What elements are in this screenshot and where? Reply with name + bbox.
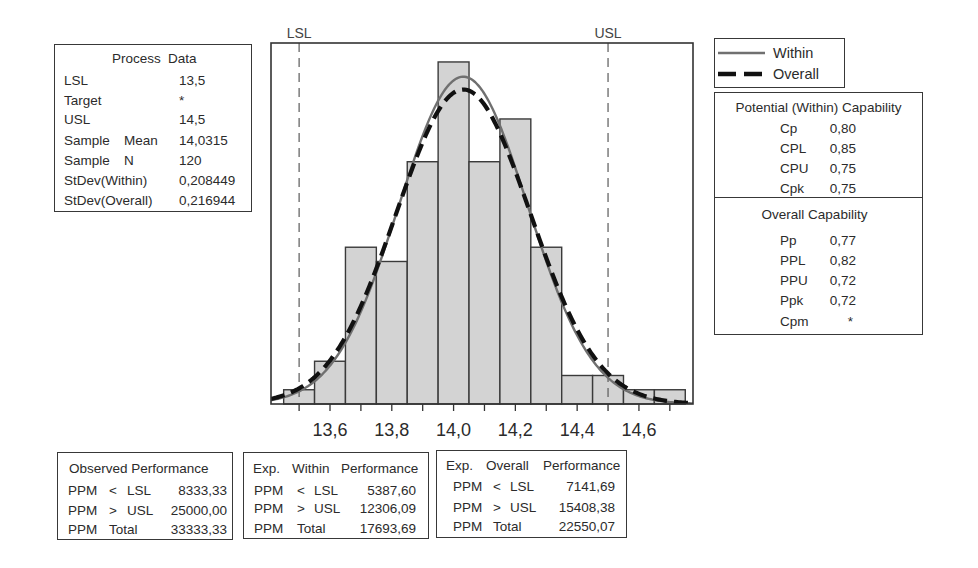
capability-value: 0,80 [830,119,856,139]
ppm-unit: PPM [254,499,283,519]
capability-value: 0,72 [830,271,856,291]
capability-value: 0,72 [830,291,856,311]
histogram-bar [438,62,469,404]
process-data-panel: Process Data LSL 13,5 Target * USL 14,5 … [54,44,252,212]
process-data-title: Process [112,49,161,69]
ppm-unit: PPM [68,520,97,540]
ppm-value: 22550,07 [559,517,615,537]
ppm-unit: PPM [254,519,283,539]
process-data-label-2: N [124,151,134,171]
x-axis-tick-label: 14,0 [436,420,471,440]
process-data-label: Sample [64,131,110,151]
process-data-value: 0,208449 [179,171,235,191]
overall-capability-title: Overall Capability [715,205,922,225]
histogram-bar [315,361,346,404]
ppm-limit: USL [314,499,340,519]
ppm-operator: < [493,477,501,497]
ppm-limit: LSL [127,481,151,501]
ppm-value: 25000,00 [171,501,227,521]
ppm-operator: > [297,499,305,519]
capability-value: 0,75 [830,179,856,199]
capability-panel: Potential (Within) Capability Cp 0,80 CP… [714,92,923,335]
x-axis-tick-label: 14,6 [621,420,656,440]
process-data-label: LSL [64,71,88,91]
capability-divider [715,197,922,198]
capability-label: Cpk [780,179,804,199]
process-data-label: Target [64,91,102,111]
exp-overall-title: Overall [486,456,529,476]
process-data-value: 14,0315 [179,131,228,151]
observed-performance-panel: Observed Performance PPM < LSL 8333,33 P… [57,452,233,540]
process-data-value: 120 [179,151,202,171]
capability-label: PPL [780,251,806,271]
ppm-limit: USL [127,501,153,521]
exp-within-title: Exp. [253,459,280,479]
legend-within-line-icon [718,48,765,58]
ppm-value: 15408,38 [559,498,615,518]
process-data-value: 13,5 [179,71,205,91]
histogram-bar [376,261,407,404]
ppm-operator: < [109,481,117,501]
ppm-unit: PPM [453,477,482,497]
legend-overall-dashed-line-icon [718,69,765,79]
ppm-value: 8333,33 [178,481,227,501]
ppm-operator: Total [493,517,522,537]
ppm-value: 5387,60 [367,481,416,501]
ppm-operator: > [109,501,117,521]
exp-within-performance-panel: Exp. Within Performance PPM < LSL 5387,6… [243,452,429,539]
usl-label: USL [594,25,621,41]
capability-label: Ppk [780,291,803,311]
ppm-limit: LSL [314,481,338,501]
capability-label: Pp [780,231,797,251]
capability-label: PPU [780,271,808,291]
ppm-unit: PPM [453,498,482,518]
ppm-value: 33333,33 [171,520,227,540]
process-data-value: 0,216944 [179,191,235,211]
capability-label: CPL [780,139,806,159]
ppm-operator: Total [109,520,138,540]
process-data-value: * [179,91,184,111]
ppm-operator: Total [297,519,326,539]
histogram-bar [500,119,531,404]
capability-label: CPU [780,159,809,179]
x-axis-tick-label: 13,6 [312,420,347,440]
ppm-value: 12306,09 [360,499,416,519]
capability-label: Cpm [780,312,809,332]
x-axis-tick-label: 13,8 [374,420,409,440]
ppm-limit: USL [510,498,536,518]
ppm-unit: PPM [254,481,283,501]
capability-value: 0,77 [830,231,856,251]
exp-overall-title: Performance [543,456,620,476]
x-axis-tick-label: 14,2 [498,420,533,440]
ppm-limit: LSL [510,477,534,497]
ppm-operator: > [493,498,501,518]
process-data-label: StDev(Overall) [64,191,153,211]
ppm-unit: PPM [453,517,482,537]
process-data-label: StDev(Within) [64,171,147,191]
lsl-label: LSL [287,25,312,41]
x-axis-tick-label: 14,4 [560,420,595,440]
capability-label: Cp [780,119,797,139]
process-data-label: USL [64,110,90,130]
chart-legend: Within Overall [714,38,845,88]
process-data-title: Data [168,49,197,69]
potential-capability-title: Potential (Within) Capability [715,98,922,118]
capability-value: 0,75 [830,159,856,179]
capability-value: * [848,312,853,332]
process-data-value: 14,5 [179,110,205,130]
ppm-unit: PPM [68,481,97,501]
capability-value: 0,82 [830,251,856,271]
histogram-bar [531,247,562,404]
ppm-operator: < [297,481,305,501]
histogram-bar [562,375,593,404]
ppm-value: 7141,69 [566,477,615,497]
observed-performance-title: Observed Performance [69,459,209,479]
process-data-label: Sample [64,151,110,171]
exp-within-title: Within [292,459,330,479]
exp-overall-performance-panel: Exp. Overall Performance PPM < LSL 7141,… [436,450,627,538]
capability-value: 0,85 [830,139,856,159]
legend-overall-label: Overall [773,64,819,84]
exp-within-title: Performance [341,459,418,479]
ppm-unit: PPM [68,501,97,521]
process-data-label-2: Mean [124,131,158,151]
